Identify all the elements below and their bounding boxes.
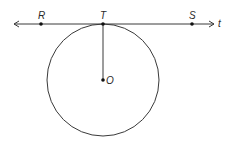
label-line-t: t: [218, 18, 222, 29]
point-r: [39, 22, 43, 26]
point-o: [101, 78, 105, 82]
label-o: O: [106, 75, 114, 86]
diagram-canvas: R T S O t: [0, 0, 233, 141]
label-r: R: [38, 10, 45, 21]
label-s: S: [189, 10, 196, 21]
label-t: T: [100, 10, 107, 21]
point-s: [190, 22, 194, 26]
point-t: [101, 22, 105, 26]
tangent-diagram: R T S O t: [0, 0, 233, 141]
